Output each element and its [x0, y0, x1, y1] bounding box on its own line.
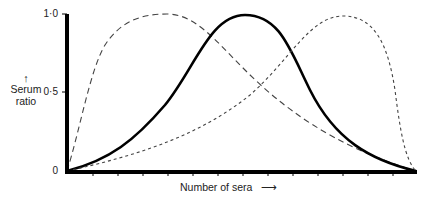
curve-solid [67, 15, 416, 171]
x-axis-label-text: Number of sera [180, 181, 252, 193]
arrow-right-icon: ⟶ [261, 181, 277, 194]
x-axis-label: Number of sera ⟶ [180, 181, 277, 194]
y-tick-label-1: 1·0 [36, 9, 58, 19]
chart-canvas [0, 0, 428, 203]
y-axis-label-line2: ratio [16, 95, 36, 107]
y-tick-label-0: 0 [36, 166, 58, 176]
y-axis-label: ↑ Serum ratio [6, 73, 46, 107]
y-axis-label-line1: Serum [11, 83, 42, 95]
arrow-up-icon: ↑ [6, 73, 46, 83]
